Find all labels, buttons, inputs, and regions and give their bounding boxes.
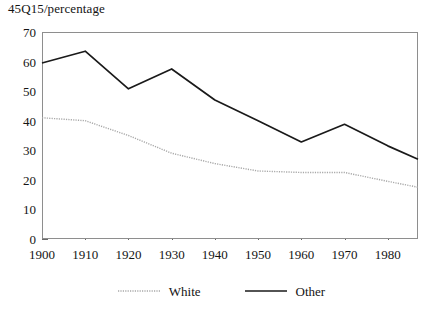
- chart-figure: 45Q15/percentage 010203040506070 1900191…: [0, 0, 443, 309]
- y-tick-label: 10: [2, 203, 36, 216]
- series-line-other: [42, 51, 418, 159]
- y-tick-label: 70: [2, 26, 36, 39]
- y-tick-label: 50: [2, 85, 36, 98]
- x-tick-label: 1940: [192, 248, 238, 261]
- legend-label-other: Other: [296, 285, 326, 298]
- x-tick-label: 1920: [105, 248, 151, 261]
- y-tick-label: 30: [2, 144, 36, 157]
- legend-label-white: White: [169, 285, 201, 298]
- plot-lines: [42, 32, 418, 239]
- dotted-line-swatch: [118, 286, 160, 296]
- y-tick-label: 40: [2, 115, 36, 128]
- x-tick-label: 1970: [322, 248, 368, 261]
- x-tick-label: 1960: [278, 248, 324, 261]
- x-tick-label: 1910: [62, 248, 108, 261]
- x-tick-label: 1980: [365, 248, 411, 261]
- legend-entry-white: White: [118, 285, 201, 298]
- y-tick-label: 0: [2, 233, 36, 246]
- legend-entry-other: Other: [245, 285, 326, 298]
- y-tick-label: 20: [2, 174, 36, 187]
- solid-line-swatch: [245, 286, 287, 296]
- x-tick-label: 1900: [19, 248, 65, 261]
- chart-title: 45Q15/percentage: [8, 1, 105, 17]
- series-line-white: [42, 118, 418, 187]
- x-tick-label: 1930: [149, 248, 195, 261]
- y-tick-label: 60: [2, 56, 36, 69]
- x-tick-label: 1950: [235, 248, 281, 261]
- chart-legend: White Other: [0, 281, 443, 301]
